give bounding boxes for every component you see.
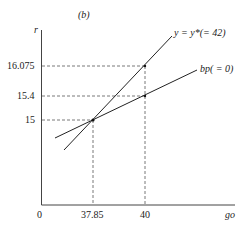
intersection-point: [91, 118, 94, 121]
point-y-40: [144, 65, 146, 67]
y-tick-154: 15.4: [17, 90, 35, 101]
series-bp-line: [55, 70, 197, 138]
series-y-label: y = y*(= 42): [173, 27, 226, 39]
x-tick-40: 40: [140, 209, 150, 220]
y-axis-label: r: [34, 24, 38, 35]
point-bp-40: [144, 95, 146, 97]
series-bp-label: bp( = 0): [200, 63, 234, 75]
chart-canvas: (b) r 16.075 15.4 15 0 37.85 40 go y = y…: [0, 0, 250, 225]
x-tick-3785: 37.85: [81, 209, 104, 220]
y-tick-15: 15: [25, 114, 35, 125]
origin-label: 0: [37, 209, 42, 220]
series-y-line: [64, 36, 172, 150]
y-tick-16075: 16.075: [7, 60, 35, 71]
x-axis-label: go: [225, 209, 235, 220]
panel-label: (b): [78, 9, 90, 21]
